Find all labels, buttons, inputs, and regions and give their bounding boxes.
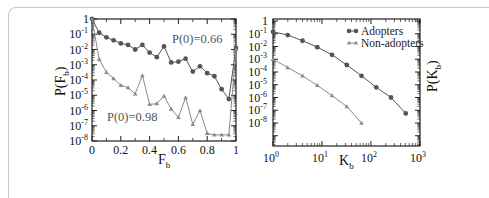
tick-label: 10-8 — [248, 115, 267, 130]
right-x-axis-label: Kb — [339, 153, 354, 171]
circle-marker-icon — [183, 56, 188, 61]
right-chart-panel: 110-110-210-310-410-510-610-710-81001011… — [248, 14, 443, 171]
tick-label: 10-8 — [69, 133, 88, 148]
triangle-marker-icon — [183, 95, 188, 99]
circle-marker-icon — [212, 74, 217, 79]
circle-marker-icon — [374, 85, 379, 90]
tick-label: 10-4 — [69, 72, 88, 87]
circle-marker-icon — [140, 43, 145, 48]
triangle-marker-icon — [97, 57, 102, 61]
circle-marker-icon — [97, 30, 102, 35]
triangle-marker-icon — [104, 70, 109, 74]
circle-marker-icon — [226, 97, 231, 102]
circle-marker-icon — [330, 52, 335, 57]
circle-marker-icon — [133, 47, 138, 52]
left-chart-panel: 110-110-210-310-410-510-610-710-800.20.4… — [53, 12, 239, 170]
triangle-marker-icon — [285, 65, 290, 69]
triangle-marker-icon — [169, 107, 174, 111]
triangle-marker-icon — [191, 122, 196, 126]
circle-marker-icon — [190, 69, 195, 74]
tick-label: 103 — [410, 150, 426, 165]
annotation-nonadopters-p0: P(0)=0.98 — [107, 110, 157, 124]
circle-marker-icon — [285, 33, 290, 38]
circle-marker-icon — [176, 59, 181, 64]
x-tick-label: 0.6 — [171, 143, 186, 157]
series-line-adopters — [92, 19, 236, 99]
triangle-marker-icon — [315, 83, 320, 87]
svg-text:Non-adopters: Non-adopters — [361, 37, 424, 50]
annotation-adopters-p0: P(0)=0.66 — [172, 32, 222, 46]
tick-label: 102 — [361, 150, 377, 165]
left-x-axis-label: Fb — [158, 152, 171, 170]
circle-marker-icon — [359, 73, 364, 78]
x-tick-label: 1 — [233, 143, 239, 157]
triangle-marker-icon — [162, 94, 167, 98]
x-tick-label: 0 — [89, 143, 95, 157]
x-tick-label: 0.4 — [142, 143, 157, 157]
tick-label: 10-5 — [69, 87, 88, 102]
circle-marker-icon — [104, 35, 109, 40]
circle-marker-icon — [315, 45, 320, 50]
triangle-marker-icon — [140, 73, 145, 77]
circle-marker-icon — [403, 111, 408, 116]
circle-marker-icon — [347, 29, 352, 34]
tick-label: 10-7 — [69, 118, 88, 133]
tick-label: 10-1 — [69, 26, 88, 41]
circle-marker-icon — [344, 63, 349, 68]
tick-label: 1 — [83, 12, 89, 26]
tick-label: 101 — [312, 150, 328, 165]
circle-marker-icon — [271, 29, 276, 34]
circle-marker-icon — [154, 55, 159, 60]
circle-marker-icon — [219, 87, 224, 92]
tick-label: 10-6 — [69, 103, 88, 118]
tick-label: 10-3 — [69, 57, 88, 72]
x-tick-label: 0.2 — [113, 143, 128, 157]
legend: Adopters Non-adopters — [347, 25, 424, 50]
right-y-axis-label: P(Kb) — [425, 60, 443, 92]
left-y-axis-label: P(Fb) — [53, 66, 71, 96]
triangle-marker-icon — [205, 131, 210, 135]
triangle-marker-icon — [300, 74, 305, 78]
tick-label: 100 — [263, 150, 279, 165]
legend-item-nonadopters: Non-adopters — [347, 37, 424, 50]
tick-label: 10-2 — [69, 42, 88, 57]
circle-marker-icon — [300, 38, 305, 43]
circle-marker-icon — [198, 64, 203, 69]
circle-marker-icon — [126, 43, 131, 48]
triangle-marker-icon — [198, 108, 203, 112]
x-tick-label: 0.8 — [200, 143, 215, 157]
circle-marker-icon — [162, 44, 167, 49]
circle-marker-icon — [389, 95, 394, 100]
circle-marker-icon — [118, 41, 123, 46]
circle-marker-icon — [205, 71, 210, 76]
circle-marker-icon — [354, 29, 359, 34]
circle-marker-icon — [147, 50, 152, 55]
circle-marker-icon — [111, 38, 116, 43]
circle-marker-icon — [169, 60, 174, 65]
